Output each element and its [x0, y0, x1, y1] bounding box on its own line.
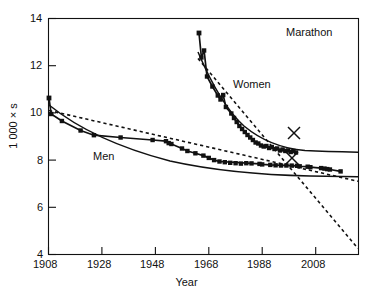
y-tick-label-10: 10 [30, 107, 42, 118]
men-extrapolation-dashed [49, 111, 358, 182]
y-tick-label-14: 14 [30, 13, 42, 24]
chart-canvas [0, 0, 373, 295]
x-tick-label-2008: 2008 [301, 259, 325, 270]
y-axis-ticks [49, 19, 57, 255]
x-axis-ticks [49, 247, 316, 255]
y-axis-label: 1 000 × s [7, 91, 19, 161]
chart-title: Marathon [286, 26, 332, 38]
crossing-x-markers [286, 127, 300, 164]
y-tick-label-6: 6 [37, 202, 43, 213]
women-extrapolation-dashed [198, 59, 358, 249]
x-tick-label-1928: 1928 [87, 259, 111, 270]
y-tick-label-12: 12 [30, 60, 42, 71]
x-axis-label: Year [0, 276, 373, 288]
women-data-markers [197, 31, 299, 155]
crossing-marker-women [288, 127, 300, 139]
x-tick-label-1948: 1948 [140, 259, 164, 270]
women-asymptotic-fit [198, 52, 358, 152]
x-tick-label-1988: 1988 [247, 259, 271, 270]
x-tick-label-1908: 1908 [33, 259, 57, 270]
x-tick-label-1968: 1968 [194, 259, 218, 270]
series-label-men: Men [93, 150, 114, 162]
chart-figure: 14 12 10 8 6 4 1908 1928 1948 1968 1988 … [0, 0, 373, 295]
series-label-women: Women [233, 78, 271, 90]
y-tick-label-8: 8 [37, 155, 43, 166]
